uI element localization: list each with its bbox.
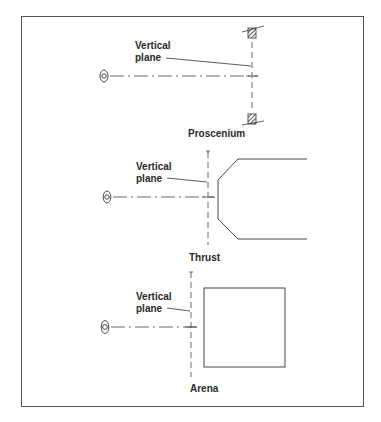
vertical-plane-label-line2: plane: [136, 173, 162, 184]
panel-caption-thrust: Thrust: [189, 252, 220, 263]
eye-viewer-icon: [103, 191, 111, 203]
arena-stage-outline: [204, 288, 285, 367]
vertical-plane-label-line2: plane: [135, 52, 161, 63]
hatched-wall-icon: [242, 114, 264, 125]
arena-panel: [101, 272, 285, 377]
stage-types-diagram: [0, 0, 381, 422]
vertical-plane-label-line2: plane: [136, 303, 162, 314]
panel-caption-proscenium: Proscenium: [188, 128, 245, 139]
eye-viewer-icon: [100, 70, 108, 82]
panel-caption-arena: Arena: [190, 383, 218, 394]
leader-line: [166, 58, 251, 66]
proscenium-panel: [100, 26, 264, 125]
leader-line: [167, 308, 190, 311]
figure-frame: [22, 17, 364, 407]
eye-viewer-icon: [101, 321, 109, 334]
thrust-stage-outline: [218, 159, 307, 239]
leader-line: [167, 178, 207, 182]
hatched-wall-icon: [242, 26, 264, 38]
vertical-plane-label-line1: Vertical: [135, 40, 171, 51]
vertical-plane-label-line1: Vertical: [136, 291, 172, 302]
vertical-plane-label-line1: Vertical: [136, 161, 172, 172]
thrust-panel: [103, 151, 307, 245]
